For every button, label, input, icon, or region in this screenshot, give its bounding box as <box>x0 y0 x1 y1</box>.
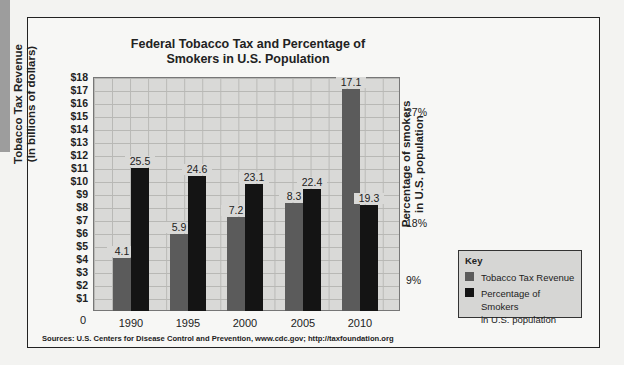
bar-value-label: 25.5 <box>125 156 155 167</box>
y-tick: $3 <box>52 266 88 278</box>
y-axis-label-line-2: (In billions of dollars) <box>25 14 38 194</box>
y-tick: $11 <box>52 162 88 174</box>
y-tick: $12 <box>52 149 88 161</box>
chart-title: Federal Tobacco Tax and Percentage of Sm… <box>93 37 403 67</box>
bar-tax-revenue-1990 <box>113 258 131 311</box>
y-tick: $7 <box>52 214 88 226</box>
x-tick: 2000 <box>225 317 265 329</box>
y-axis-label-line-1: Tobacco Tax Revenue <box>12 14 25 194</box>
y-tick: $4 <box>52 253 88 265</box>
legend-label: Tobacco Tax Revenue <box>481 271 574 284</box>
x-tick: 2010 <box>340 317 380 329</box>
legend-swatch-gray <box>465 272 474 281</box>
legend: Key Tobacco Tax Revenue Percentage of Sm… <box>458 250 582 318</box>
x-tick: 1995 <box>168 317 208 329</box>
legend-item-smokers: Percentage of Smokers in U.S. population <box>465 287 575 326</box>
y-tick: $1 <box>52 292 88 304</box>
legend-label-line-2: in U.S. population <box>481 314 556 325</box>
y-tick: $6 <box>52 227 88 239</box>
y-tick: $8 <box>52 201 88 213</box>
y-tick: $10 <box>52 175 88 187</box>
page-edge-strip <box>0 0 10 152</box>
y-tick: $18 <box>52 71 88 83</box>
bar-tax-revenue-2000 <box>227 217 245 311</box>
y2-axis-label: Percentage of smokers in U.S. population <box>400 74 426 254</box>
legend-label-line-1: Percentage of Smokers <box>481 288 540 312</box>
bar-value-label: 23.1 <box>239 172 269 183</box>
y2-axis-label-line-2: in U.S. population <box>413 74 426 254</box>
bar-value-label: 19.3 <box>354 193 384 204</box>
legend-item-tax-revenue: Tobacco Tax Revenue <box>465 271 575 284</box>
bar-value-label: 24.6 <box>182 164 212 175</box>
bar-smokers-pct-1990 <box>131 168 149 311</box>
bar-value-label: 17.1 <box>336 77 366 88</box>
y-tick: $2 <box>52 279 88 291</box>
x-tick: 1990 <box>111 317 151 329</box>
y-tick: $13 <box>52 136 88 148</box>
legend-title: Key <box>465 255 575 266</box>
legend-label: Percentage of Smokers in U.S. population <box>481 287 575 326</box>
y2-tick-9: 9% <box>406 274 421 286</box>
chart-title-line-2: Smokers in U.S. Population <box>93 52 403 67</box>
bar-smokers-pct-2010 <box>360 205 378 311</box>
bar-smokers-pct-2005 <box>303 189 321 311</box>
y-tick: $5 <box>52 240 88 252</box>
y2-axis-label-line-1: Percentage of smokers <box>400 74 413 254</box>
y-tick: $15 <box>52 110 88 122</box>
y-tick: $17 <box>52 84 88 96</box>
bar-tax-revenue-2005 <box>285 203 303 311</box>
bar-smokers-pct-2000 <box>245 184 263 311</box>
bar-tax-revenue-1995 <box>170 234 188 311</box>
y-axis-label: Tobacco Tax Revenue (In billions of doll… <box>12 14 38 194</box>
y-tick: $16 <box>52 97 88 109</box>
y-tick: $9 <box>52 188 88 200</box>
y-tick-0: 0 <box>80 314 86 326</box>
legend-swatch-black <box>465 288 474 297</box>
bar-value-label: 22.4 <box>297 177 327 188</box>
chart-title-line-1: Federal Tobacco Tax and Percentage of <box>93 37 403 52</box>
bar-smokers-pct-1995 <box>188 176 206 311</box>
x-tick: 2005 <box>283 317 323 329</box>
y-tick: $14 <box>52 123 88 135</box>
source-note: Sources: U.S. Centers for Disease Contro… <box>42 334 394 343</box>
